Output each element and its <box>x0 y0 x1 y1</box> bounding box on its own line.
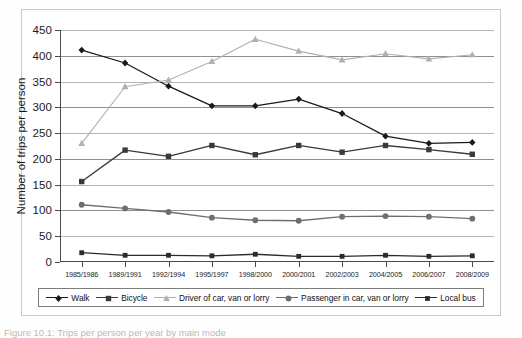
legend-swatch-icon <box>415 293 437 302</box>
data-point-marker <box>382 50 389 56</box>
legend-label: Driver of car, van or lorry <box>179 293 269 303</box>
series-line <box>82 253 473 257</box>
y-tick-label: 200 <box>33 153 53 165</box>
x-tick-label: 2006/2007 <box>412 270 445 279</box>
data-point-marker <box>383 143 388 148</box>
y-axis-title: Number of trips per person <box>15 78 27 215</box>
x-tick-mark <box>429 262 430 267</box>
data-point-marker <box>382 133 388 140</box>
series-local-bus <box>79 250 474 258</box>
data-point-marker <box>286 296 292 302</box>
legend-label: Passenger in car, van or lorry <box>301 293 408 303</box>
y-tick-label: 400 <box>33 50 53 62</box>
x-tick-mark <box>125 262 126 267</box>
series-passenger-in-car-van-or-lorry <box>79 202 475 224</box>
y-tick-mark <box>55 262 60 263</box>
data-point-marker <box>426 140 432 147</box>
data-point-marker <box>79 179 84 184</box>
legend-item-driver-of-car-van-or-lorry[interactable]: Driver of car, van or lorry <box>154 293 269 303</box>
series-line <box>82 205 473 221</box>
data-point-marker <box>252 36 259 42</box>
data-point-marker <box>427 254 432 259</box>
legend-item-local-bus[interactable]: Local bus <box>415 293 475 303</box>
data-point-marker <box>425 296 430 301</box>
data-point-marker <box>122 60 128 67</box>
legend-swatch-icon <box>46 293 68 302</box>
figure-caption: Figure 10.1: Trips per person per year b… <box>4 327 226 338</box>
data-point-marker <box>123 253 128 258</box>
data-point-marker <box>469 216 475 222</box>
plot-wrapper <box>60 30 494 262</box>
data-point-marker <box>252 217 258 223</box>
series-line <box>82 39 473 143</box>
data-point-marker <box>209 143 214 148</box>
data-point-marker <box>56 295 62 302</box>
legend-label: Bicycle <box>121 293 147 303</box>
legend-label: Local bus <box>440 293 475 303</box>
data-point-marker <box>470 253 475 258</box>
data-point-marker <box>209 58 216 64</box>
series-bicycle <box>79 143 475 184</box>
y-tick-label: 450 <box>33 24 53 36</box>
legend-swatch-icon <box>276 293 298 302</box>
series-line <box>82 145 473 181</box>
legend-label: Walk <box>71 293 89 303</box>
data-point-marker <box>166 209 172 215</box>
data-point-marker <box>106 296 111 301</box>
data-point-marker <box>122 205 128 211</box>
x-tick-mark <box>472 262 473 267</box>
data-point-marker <box>383 253 388 258</box>
legend-item-passenger-in-car-van-or-lorry[interactable]: Passenger in car, van or lorry <box>276 293 408 303</box>
y-tick-label: 300 <box>33 101 53 113</box>
x-tick-label: 2004/2005 <box>369 270 402 279</box>
data-point-marker <box>79 250 84 255</box>
x-tick-mark <box>299 262 300 267</box>
series-walk <box>79 47 476 147</box>
data-point-marker <box>252 102 258 109</box>
data-point-marker <box>339 214 345 220</box>
y-tick-label: 0 <box>46 256 53 268</box>
x-tick-label: 1995/1997 <box>195 270 228 279</box>
legend-item-walk[interactable]: Walk <box>46 293 89 303</box>
data-point-marker <box>296 254 301 259</box>
y-tick-label: 50 <box>39 230 52 242</box>
y-tick-label: 100 <box>33 204 53 216</box>
data-point-marker <box>165 83 171 90</box>
data-point-marker <box>383 213 389 219</box>
data-point-marker <box>166 253 171 258</box>
legend-item-bicycle[interactable]: Bicycle <box>96 293 147 303</box>
series-layer <box>60 30 494 262</box>
legend-swatch-icon <box>154 293 176 302</box>
x-tick-label: 2002/2003 <box>326 270 359 279</box>
x-tick-label: 2008/2009 <box>456 270 489 279</box>
data-point-marker <box>469 51 476 57</box>
x-tick-mark <box>212 262 213 267</box>
x-tick-mark <box>255 262 256 267</box>
data-point-marker <box>209 215 215 221</box>
x-tick-mark <box>169 262 170 267</box>
data-point-marker <box>122 147 127 152</box>
data-point-marker <box>426 214 432 220</box>
x-tick-label: 1989/1991 <box>109 270 142 279</box>
data-point-marker <box>339 149 344 154</box>
data-point-marker <box>166 154 171 159</box>
data-point-marker <box>296 96 302 103</box>
data-point-marker <box>79 202 85 208</box>
data-point-marker <box>469 139 475 146</box>
data-point-marker <box>79 47 85 54</box>
x-tick-label: 1992/1994 <box>152 270 185 279</box>
series-line <box>82 50 473 143</box>
x-tick-mark <box>342 262 343 267</box>
data-point-marker <box>253 252 258 257</box>
series-driver-of-car-van-or-lorry <box>78 36 475 146</box>
data-point-marker <box>339 110 345 117</box>
data-point-marker <box>163 295 170 301</box>
data-point-marker <box>209 102 215 109</box>
x-tick-label: 1985/1986 <box>65 270 98 279</box>
x-tick-label: 1998/2000 <box>239 270 272 279</box>
y-tick-label: 350 <box>33 76 53 88</box>
legend-swatch-icon <box>96 293 118 302</box>
data-point-marker <box>253 152 258 157</box>
chart-legend: WalkBicycleDriver of car, van or lorryPa… <box>38 288 484 307</box>
